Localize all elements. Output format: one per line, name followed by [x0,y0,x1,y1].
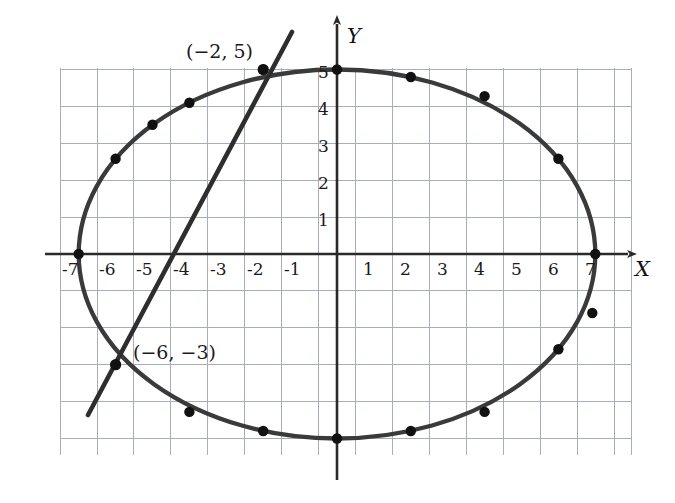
marked-point [587,308,597,318]
y-axis-label: Y [347,26,361,47]
marked-point [258,426,268,436]
marked-point [110,154,120,164]
x-tick-label-minus3: -3 [210,261,227,278]
marked-point [184,98,194,108]
marked-point [147,120,157,130]
x-tick-label-minus1: -1 [284,261,301,278]
x-tick-label-minus7: -7 [62,261,79,278]
marked-point [406,426,416,436]
x-tick-label-2: 2 [400,261,411,278]
marked-point [74,249,84,259]
x-tick-label-minus6: -6 [99,261,116,278]
point-label-minus6-minus3: (−6, −3) [133,343,216,362]
x-axis-label: X [635,259,650,280]
marked-point [479,407,489,417]
marked-point [184,407,194,417]
x-tick-label-4: 4 [474,261,485,278]
y-tick-label-5: 5 [318,64,329,81]
x-tick-label-6: 6 [548,261,559,278]
x-tick-label-7: 7 [585,261,596,278]
marked-point [590,249,600,259]
plot-canvas [0,0,675,503]
x-tick-label-minus5: -5 [136,261,153,278]
marked-point [479,91,489,101]
x-tick-label-minus4: -4 [173,261,190,278]
marked-point [553,344,563,354]
x-tick-label-5: 5 [511,261,522,278]
x-tick-label-1: 1 [363,261,374,278]
x-tick-label-minus2: -2 [247,261,264,278]
intersection-point-lower [110,359,121,370]
y-tick-label-4: 4 [318,101,329,118]
intersection-point-upper [258,64,269,75]
y-tick-label-2: 2 [318,175,329,192]
y-tick-label-1: 1 [318,212,329,229]
point-label-minus2-5: (−2, 5) [186,42,253,61]
marked-point [406,72,416,82]
marked-point [332,64,342,74]
y-tick-label-3: 3 [318,138,329,155]
marked-point [332,433,342,443]
marked-point [553,154,563,164]
x-tick-label-3: 3 [437,261,448,278]
graph-figure: -7 -6 -5 -4 -3 -2 -1 1 2 3 4 5 6 7 1 2 3… [0,0,675,503]
